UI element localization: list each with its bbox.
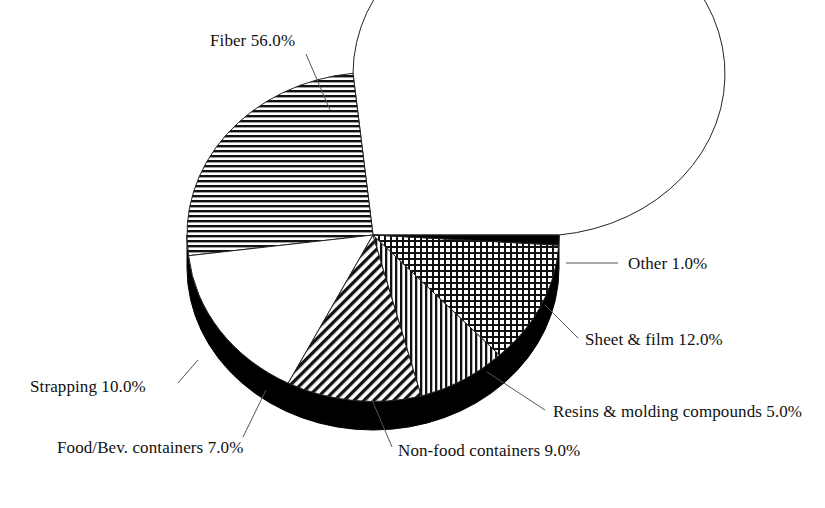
- label-strapping: Strapping 10.0%: [30, 377, 146, 396]
- label-fiber: Fiber 56.0%: [210, 31, 295, 50]
- leader-line-resins: [487, 372, 545, 410]
- pie-slice-strapping[interactable]: [187, 73, 373, 255]
- leader-line-strapping: [178, 360, 198, 383]
- label-non-food: Non-food containers 9.0%: [398, 441, 580, 460]
- label-resins: Resins & molding compounds 5.0%: [553, 402, 802, 421]
- label-other: Other 1.0%: [628, 254, 707, 273]
- pie-slice-fiber[interactable]: [353, 0, 725, 235]
- label-sheet-film: Sheet & film 12.0%: [585, 330, 723, 349]
- leader-line-food-bev: [243, 390, 266, 437]
- label-food-bev: Food/Bev. containers 7.0%: [57, 438, 243, 457]
- leader-line-sheet-film: [545, 305, 578, 338]
- pie-chart: Fiber 56.0% Other 1.0% Sheet & film 12.0…: [0, 0, 825, 508]
